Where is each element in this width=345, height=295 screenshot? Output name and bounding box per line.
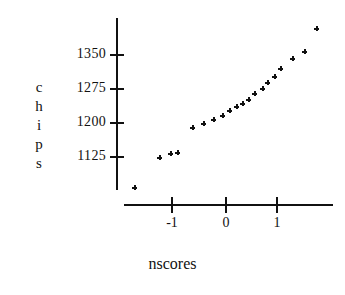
data-point bbox=[260, 86, 265, 91]
data-point bbox=[220, 113, 225, 118]
data-point bbox=[265, 80, 270, 85]
y-axis-title-letter: i bbox=[28, 116, 50, 135]
y-axis-tick-1275 bbox=[110, 88, 124, 90]
data-point bbox=[278, 66, 283, 71]
x-axis-label-minus1: -1 bbox=[158, 216, 186, 230]
y-axis-title-letter: h bbox=[28, 97, 50, 116]
y-axis-label-1200: 1200 bbox=[60, 115, 106, 129]
y-axis-title-letter: p bbox=[28, 135, 50, 154]
y-axis-label-1350: 1350 bbox=[60, 47, 106, 61]
y-axis-tick-1125 bbox=[110, 156, 124, 158]
data-point bbox=[190, 125, 195, 130]
y-axis-line bbox=[116, 18, 118, 190]
y-axis-title-letter: s bbox=[28, 154, 50, 173]
y-axis-label-1350-wrap: 1350 bbox=[60, 47, 106, 61]
data-point bbox=[175, 150, 180, 155]
y-axis-label-1125: 1125 bbox=[60, 149, 106, 163]
data-point bbox=[240, 101, 245, 106]
data-point bbox=[211, 117, 216, 122]
x-axis-title: nscores bbox=[0, 255, 345, 273]
y-axis-label-1200-wrap: 1200 bbox=[60, 115, 106, 129]
y-axis-label-1125-wrap: 1125 bbox=[60, 149, 106, 163]
data-point bbox=[201, 121, 206, 126]
scatter-plot: 1350 1275 1200 1125 -1 0 1 c h i p s nsc… bbox=[0, 0, 345, 295]
y-axis-tick-1350 bbox=[110, 54, 124, 56]
y-axis-tick-1200 bbox=[110, 122, 124, 124]
data-point bbox=[302, 49, 307, 54]
data-point bbox=[246, 97, 251, 102]
data-point bbox=[168, 151, 173, 156]
data-point bbox=[132, 185, 137, 190]
x-axis-line bbox=[124, 204, 333, 206]
data-point bbox=[314, 26, 319, 31]
x-axis-tick-1 bbox=[276, 197, 278, 213]
y-axis-label-1275-wrap: 1275 bbox=[60, 81, 106, 95]
data-point bbox=[157, 155, 162, 160]
x-axis-tick-0 bbox=[225, 197, 227, 213]
x-axis-tick-minus1 bbox=[171, 197, 173, 213]
data-point bbox=[234, 104, 239, 109]
y-axis-label-1275: 1275 bbox=[60, 81, 106, 95]
data-point bbox=[290, 56, 295, 61]
x-axis-label-0: 0 bbox=[212, 216, 240, 230]
data-point bbox=[252, 91, 257, 96]
y-axis-title: c h i p s bbox=[28, 78, 50, 173]
data-point bbox=[272, 74, 277, 79]
x-axis-label-1: 1 bbox=[263, 216, 291, 230]
data-point bbox=[227, 108, 232, 113]
y-axis-title-letter: c bbox=[28, 78, 50, 97]
